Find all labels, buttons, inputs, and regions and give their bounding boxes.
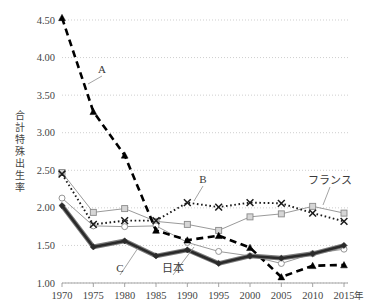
y-tick-label-3.00: 3.00 <box>37 127 55 138</box>
marker-フランス-2010 <box>310 203 316 209</box>
x-tick-label-1995: 1995 <box>208 290 229 301</box>
annotation-leader-フランス <box>323 187 330 205</box>
marker-フランス-2000 <box>247 214 253 220</box>
x-tick-label-1980: 1980 <box>114 290 135 301</box>
marker-日本-1995 <box>216 248 222 254</box>
y-tick-label-4.50: 4.50 <box>37 15 55 26</box>
series-line-A <box>62 18 344 277</box>
y-axis-tick-labels: 1.001.502.002.503.003.504.004.50 <box>37 15 55 289</box>
data-series <box>59 14 348 280</box>
svg-text:合計特殊出生率: 合計特殊出生率 <box>15 109 25 193</box>
marker-A-2000 <box>247 244 254 250</box>
marker-B-2005 <box>278 200 285 207</box>
marker-A-1980 <box>121 152 128 158</box>
y-tick-label-1.50: 1.50 <box>37 240 55 251</box>
chart-canvas: 1.001.502.002.503.003.504.004.50 1970197… <box>0 0 372 308</box>
series-A <box>59 14 348 280</box>
x-axis-unit-label: 年 <box>354 290 364 301</box>
y-tick-label-2.00: 2.00 <box>37 202 55 213</box>
y-tick-label-2.50: 2.50 <box>37 165 55 176</box>
marker-フランス-1975 <box>90 209 96 215</box>
marker-フランス-2005 <box>278 211 284 217</box>
annotation-label-C: C <box>116 262 123 274</box>
y-tick-label-1.00: 1.00 <box>37 278 55 289</box>
x-tick-label-1970: 1970 <box>52 290 73 301</box>
x-tick-label-2015: 2015 <box>334 290 355 301</box>
annotation-leader-A <box>88 76 102 84</box>
y-axis-title: 合計特殊出生率 <box>15 109 25 193</box>
axes <box>62 283 348 287</box>
annotation-label-フランス: フランス <box>308 174 352 186</box>
x-tick-label-2005: 2005 <box>271 290 292 301</box>
marker-日本-1970 <box>59 195 65 201</box>
marker-B-2010 <box>309 210 316 217</box>
marker-フランス-1990 <box>184 221 190 227</box>
annotation-label-B: B <box>199 173 206 185</box>
marker-日本-1980 <box>122 224 128 230</box>
x-tick-label-2000: 2000 <box>240 290 261 301</box>
annotation-label-A: A <box>98 63 106 75</box>
x-tick-label-1990: 1990 <box>177 290 198 301</box>
marker-A-1975 <box>90 108 97 114</box>
x-tick-label-1985: 1985 <box>146 290 167 301</box>
marker-フランス-2015 <box>341 210 347 216</box>
marker-B-1995 <box>215 204 222 211</box>
marker-フランス-1980 <box>122 206 128 212</box>
y-tick-label-3.50: 3.50 <box>37 90 55 101</box>
series-C <box>59 203 347 267</box>
y-tick-label-4.00: 4.00 <box>37 52 55 63</box>
marker-A-1970 <box>59 14 66 20</box>
annotation-label-日本: 日本 <box>162 261 184 274</box>
fertility-rate-line-chart: 1.001.502.002.503.003.504.004.50 1970197… <box>0 0 372 308</box>
x-axis-tick-labels: 1970197519801985199019952000200520102015 <box>52 290 355 301</box>
annotation-leader-B <box>194 186 203 201</box>
x-tick-label-1975: 1975 <box>83 290 104 301</box>
x-tick-label-2010: 2010 <box>302 290 323 301</box>
